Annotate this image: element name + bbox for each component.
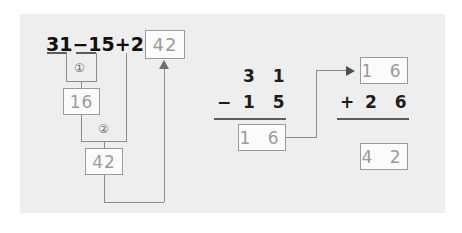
subtraction-rule	[214, 118, 286, 120]
subtraction-difference-box: 1 6	[238, 124, 286, 151]
step2-to-result-connector	[104, 141, 105, 148]
addition-sum-box: 4 2	[360, 143, 408, 170]
step1-result-box: 16	[63, 88, 100, 115]
carry-connector-across-high	[316, 70, 346, 71]
carry-connector-up	[316, 70, 317, 138]
subtraction-minuend: 3 1	[243, 66, 291, 86]
underline-operand-31	[47, 52, 67, 54]
step2-bracket-right	[126, 53, 127, 141]
step1-bracket-left	[66, 53, 67, 81]
worksheet-image: 31−15+26= ① 16 ② 42 42 3 1 − 1 5 1 6 1 6…	[0, 0, 462, 233]
addition-addend-1-box: 1 6	[360, 57, 408, 84]
answer-arrowhead	[159, 60, 169, 69]
step1-to-result-connector	[81, 81, 82, 88]
carry-connector-across-low	[286, 137, 316, 138]
subtraction-subtrahend: 1 5	[243, 92, 291, 112]
addition-rule	[337, 118, 409, 120]
step-marker-1: ①	[74, 62, 85, 74]
addition-operator: +	[340, 92, 354, 112]
answer-return-segment-down	[104, 175, 105, 202]
carry-arrowhead	[346, 66, 355, 76]
step2-bracket-left	[81, 115, 82, 141]
answer-return-segment-up	[164, 68, 165, 202]
addition-addend-2: 2 6	[365, 92, 413, 112]
step1-bracket-right	[96, 53, 97, 81]
step-marker-2: ②	[98, 123, 109, 135]
answer-box: 42	[145, 30, 185, 59]
step2-result-box: 42	[85, 148, 123, 175]
subtraction-operator: −	[217, 92, 231, 112]
underline-operand-15	[76, 52, 96, 54]
answer-return-segment-across	[104, 202, 164, 203]
